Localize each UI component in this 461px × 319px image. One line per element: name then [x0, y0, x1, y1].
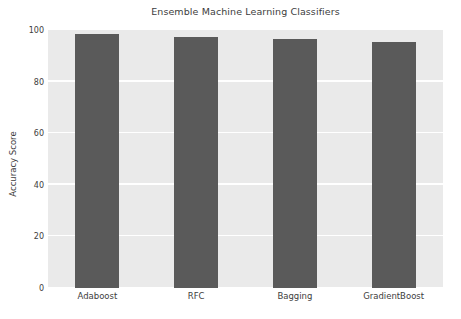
plot-area [48, 30, 443, 288]
y-tick-label: 0 [2, 284, 44, 293]
bar [372, 42, 416, 288]
x-tick-label: Bagging [277, 291, 312, 301]
x-axis-ticks: AdaboostRFCBaggingGradientBoost [48, 291, 443, 307]
bar-series [48, 30, 443, 288]
y-tick-label: 80 [2, 77, 44, 86]
x-tick-label: GradientBoost [363, 291, 424, 301]
bar [174, 37, 218, 288]
y-tick-label: 40 [2, 180, 44, 189]
chart-figure: Ensemble Machine Learning Classifiers Ac… [0, 0, 461, 319]
bar [273, 39, 317, 288]
bar [75, 34, 119, 288]
y-tick-label: 60 [2, 129, 44, 138]
x-tick-label: RFC [188, 291, 205, 301]
x-tick-label: Adaboost [77, 291, 117, 301]
y-tick-label: 20 [2, 232, 44, 241]
chart-title: Ensemble Machine Learning Classifiers [48, 6, 443, 17]
y-axis-ticks: 020406080100 [0, 30, 44, 288]
y-tick-label: 100 [2, 26, 44, 35]
